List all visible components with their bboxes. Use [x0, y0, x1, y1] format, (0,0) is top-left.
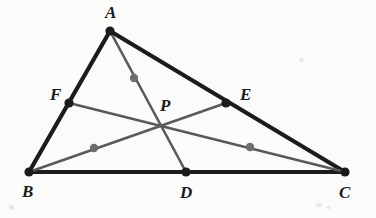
point-label-B: B: [22, 183, 33, 200]
vertex-dot-C: [340, 167, 349, 176]
segment-cevian-BE: [29, 103, 226, 172]
midpoint-dot-on-BE: [90, 144, 98, 152]
midpoint-dot-on-CF: [246, 143, 254, 151]
geometry-figure: A B C D E F P: [0, 0, 376, 218]
point-label-C: C: [339, 184, 350, 201]
scan-artifact: [9, 205, 14, 210]
point-label-D: D: [180, 184, 192, 201]
vertex-dot-D: [181, 167, 190, 176]
vertex-dot-E: [221, 98, 230, 107]
cevians: [29, 31, 345, 172]
vertex-dot-A: [105, 26, 114, 35]
scan-artifact: [299, 58, 304, 62]
scan-artifact: [316, 203, 322, 207]
vertex-dot-F: [64, 98, 73, 107]
scan-artifact: [326, 206, 331, 209]
vertex-dot-B: [24, 167, 33, 176]
midpoint-markers: [90, 74, 254, 152]
point-label-P: P: [160, 97, 170, 114]
vertex-dots: [24, 26, 349, 176]
point-label-E: E: [240, 86, 251, 103]
midpoint-dot-on-AD: [130, 74, 138, 82]
point-label-F: F: [50, 86, 61, 103]
triangle-sides: [29, 31, 345, 172]
point-label-A: A: [105, 4, 116, 21]
segment-cevian-CF: [69, 103, 345, 172]
